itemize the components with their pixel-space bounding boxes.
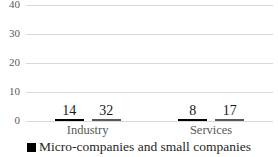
legend-swatch-icon (27, 143, 36, 152)
legend: Micro-companies and small companies (0, 139, 278, 155)
y-tick-label: 30 (0, 28, 20, 39)
bar-value-label: 32 (83, 103, 130, 118)
gridline (26, 63, 273, 64)
plot-area: 1432817 (26, 5, 273, 121)
x-category-label: Services (190, 123, 232, 138)
bar: 17 (215, 119, 244, 121)
gridline (26, 92, 273, 93)
gridline (26, 121, 273, 122)
legend-label: Micro-companies and small companies (39, 139, 251, 155)
y-tick-label: 40 (0, 0, 20, 10)
y-tick-label: 10 (0, 86, 20, 97)
y-tick-label: 20 (0, 57, 20, 68)
bar: 8 (178, 119, 207, 121)
y-axis: 010203040 (0, 5, 22, 121)
gridline (26, 5, 273, 6)
x-axis-labels: IndustryServices (26, 123, 273, 138)
bar: 32 (92, 119, 121, 121)
x-category-label: Industry (67, 123, 109, 138)
y-tick-label: 0 (0, 115, 20, 126)
bar-group-industry: 1432 (55, 119, 121, 121)
bar: 14 (55, 119, 84, 121)
gridline (26, 34, 273, 35)
bar-group-services: 817 (178, 119, 244, 121)
bar-value-label: 17 (206, 103, 253, 118)
bar-chart: 010203040 1432817 IndustryServices Micro… (0, 0, 278, 157)
